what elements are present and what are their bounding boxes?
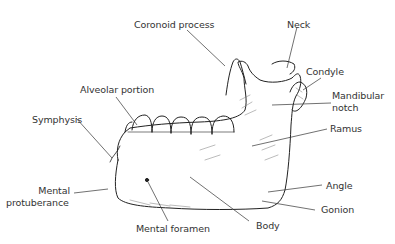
neck-shape	[272, 61, 295, 74]
label-condyle: Condyle	[306, 67, 344, 77]
label-coronoid-process: Coronoid process	[134, 20, 214, 30]
mandible-diagram: Coronoid process Neck Condyle Mandibular…	[0, 0, 395, 244]
label-gonion: Gonion	[321, 205, 354, 215]
label-angle: Angle	[326, 181, 353, 191]
label-mandibular-notch-line1: Mandibular	[332, 91, 384, 101]
mental-foramen-dot	[145, 178, 148, 181]
label-neck: Neck	[287, 20, 310, 30]
hatching	[130, 88, 303, 207]
leader-lines	[74, 27, 331, 221]
label-body: Body	[256, 221, 280, 231]
label-mandibular-notch-line2: notch	[332, 103, 358, 113]
teeth-row	[125, 115, 234, 134]
label-ramus: Ramus	[330, 124, 362, 134]
label-mental-protuberance-line1: Mental	[38, 186, 70, 196]
label-alveolar-portion: Alveolar portion	[80, 85, 154, 95]
coronoid-process-shape	[226, 59, 246, 95]
label-mental-foramen: Mental foramen	[136, 224, 210, 234]
label-mental-protuberance-line2: protuberance	[6, 198, 69, 208]
symphysis-curve	[110, 146, 120, 162]
label-symphysis: Symphysis	[32, 115, 82, 125]
